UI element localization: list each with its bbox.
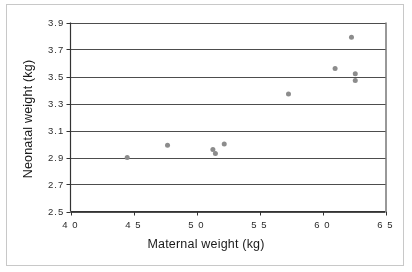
x-tick-label: 6 0 [303, 219, 343, 230]
y-tick-label: 3.3 [31, 98, 65, 109]
x-tick-label: 6 5 [366, 219, 406, 230]
y-tick-label: 2.5 [31, 206, 65, 217]
y-tick-label: 2.9 [31, 152, 65, 163]
y-tick-label: 3.1 [31, 125, 65, 136]
x-axis-title: Maternal weight (kg) [0, 237, 412, 251]
x-tick-label: 4 0 [51, 219, 91, 230]
y-tick-label: 3.9 [31, 17, 65, 28]
x-tick-label: 5 5 [240, 219, 280, 230]
y-tick-label: 3.5 [31, 71, 65, 82]
x-tick-label: 4 5 [114, 219, 154, 230]
x-tick-label: 5 0 [177, 219, 217, 230]
y-tick-label: 3.7 [31, 44, 65, 55]
scatter-plot-canvas [0, 0, 412, 272]
y-tick-label: 2.7 [31, 179, 65, 190]
